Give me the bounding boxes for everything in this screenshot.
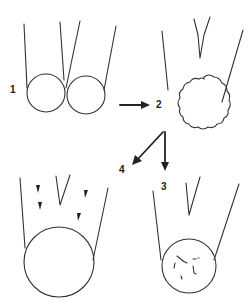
stage-2: 2 [156,17,243,129]
stage-label: 3 [161,181,167,192]
internal-fragments [174,256,199,279]
arrowhead-marker [38,202,42,210]
arrowhead-marker [77,213,81,221]
tubule-wall [56,175,70,205]
diagram-canvas: 1 2 4 3 [0,0,252,304]
tubule-wall [20,178,25,248]
tubule-wall [214,184,239,260]
stage-label: 4 [119,164,125,175]
tubule-wall [186,177,200,215]
tubule-wall [153,191,161,260]
fragmented-sphere [162,239,216,293]
tubule-wall [60,22,64,80]
tubule-wall [104,26,116,90]
stage-3: 3 [153,177,239,293]
tubule-wall [93,188,108,260]
stage-label: 1 [10,84,16,95]
stage-1: 1 [10,21,116,114]
arrow-2-to-4 [132,132,163,165]
tubule-wall [194,17,210,58]
sphere [27,74,65,112]
arrow-1-to-2 [120,101,150,109]
tubule-wall [24,24,27,88]
stage-4: 4 [20,164,125,297]
arrow-2-to-3 [161,132,169,171]
arrowhead-marker [84,190,88,198]
tubule-wall [162,31,168,90]
sphere [67,76,105,114]
arrowhead-marker [36,185,40,193]
stage-label: 2 [156,99,162,110]
tubule-wall [222,30,243,102]
large-sphere [24,227,94,297]
